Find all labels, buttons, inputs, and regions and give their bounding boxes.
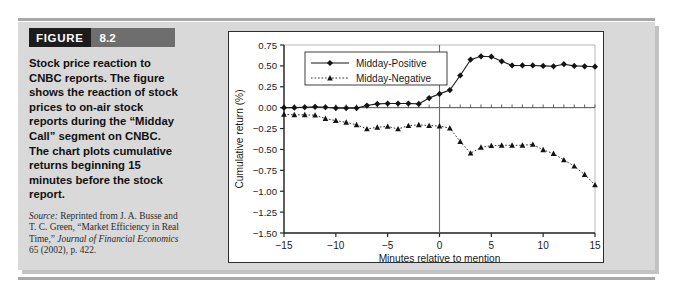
figure-caption-text: Stock price reaction to CNBC reports. Th…	[29, 56, 181, 202]
marker-diamond	[478, 53, 484, 59]
marker-triangle	[561, 157, 567, 162]
x-axis-title: Minutes relative to mention	[379, 253, 501, 262]
marker-diamond	[312, 104, 318, 110]
y-axis-title: Cumulative return (%)	[234, 89, 245, 188]
panel-shadow-bottom	[22, 270, 659, 274]
cumulative-return-line-chart: 0.750.500.250.00−0.25−0.50−0.75−1.00−1.2…	[229, 32, 603, 262]
figure-source: Source: Reprinted from J. A. Busse and T…	[29, 211, 179, 256]
marker-triangle	[426, 123, 432, 128]
marker-triangle	[571, 163, 577, 168]
marker-diamond	[468, 57, 474, 63]
marker-diamond	[519, 62, 525, 68]
x-tick-label: −5	[382, 240, 394, 251]
marker-diamond	[322, 104, 328, 110]
chart-card: 0.750.500.250.00−0.25−0.50−0.75−1.00−1.2…	[228, 31, 604, 263]
x-tick-label: 5	[489, 240, 495, 251]
marker-diamond	[582, 63, 588, 69]
y-tick-label: −1.25	[253, 207, 277, 218]
y-tick-label: −1.00	[253, 186, 277, 197]
marker-triangle	[447, 125, 453, 130]
marker-triangle	[468, 150, 474, 155]
marker-diamond	[343, 105, 349, 111]
marker-diamond	[302, 104, 308, 110]
marker-diamond	[374, 101, 380, 107]
marker-diamond	[488, 54, 494, 60]
marker-diamond	[550, 63, 556, 69]
marker-diamond	[571, 63, 577, 69]
marker-diamond	[291, 105, 297, 111]
panel-shadow-right	[655, 26, 659, 274]
marker-diamond	[333, 105, 339, 111]
marker-diamond	[281, 105, 287, 111]
legend-label-1: Midday-Positive	[356, 58, 427, 69]
legend-label-2: Midday-Negative	[356, 73, 431, 84]
y-tick-label: −1.50	[253, 228, 277, 239]
y-tick-label: −0.25	[253, 123, 277, 134]
marker-triangle	[364, 126, 370, 131]
marker-triangle	[374, 124, 380, 129]
marker-triangle	[540, 147, 546, 152]
y-tick-label: 0.75	[258, 40, 277, 51]
y-tick-label: 0.25	[258, 81, 277, 92]
marker-diamond	[426, 95, 432, 101]
figure-tag-number: 8.2	[91, 28, 175, 47]
figure-page: FIGURE 8.2 Stock price reaction to CNBC …	[0, 0, 673, 307]
marker-diamond	[395, 100, 401, 106]
top-rule	[18, 18, 655, 21]
marker-triangle	[592, 182, 598, 187]
source-label: Source:	[29, 211, 58, 221]
marker-diamond	[592, 64, 598, 70]
marker-diamond	[353, 105, 359, 111]
marker-diamond	[405, 100, 411, 106]
marker-triangle	[551, 151, 557, 156]
y-tick-label: 0.00	[258, 102, 277, 113]
figure-tag: FIGURE 8.2	[29, 28, 175, 47]
marker-diamond	[416, 101, 422, 107]
marker-diamond	[540, 63, 546, 69]
x-tick-label: 10	[538, 240, 550, 251]
marker-triangle	[385, 123, 391, 128]
source-italic-journal: Journal of Financial Economics	[57, 234, 178, 244]
x-tick-label: −10	[327, 240, 344, 251]
marker-triangle	[406, 123, 412, 128]
x-tick-label: 0	[437, 240, 443, 251]
marker-triangle	[488, 143, 494, 148]
marker-diamond	[530, 62, 536, 68]
x-tick-label: 15	[589, 240, 601, 251]
bottom-rule	[18, 277, 655, 280]
marker-triangle	[416, 122, 422, 127]
marker-triangle	[281, 111, 287, 116]
x-tick-label: −15	[276, 240, 293, 251]
marker-triangle	[530, 141, 536, 146]
y-tick-label: 0.50	[258, 60, 277, 71]
y-tick-label: −0.50	[253, 144, 277, 155]
marker-triangle	[395, 126, 401, 131]
marker-diamond	[436, 91, 442, 97]
marker-diamond	[561, 61, 567, 67]
marker-triangle	[478, 144, 484, 149]
y-tick-label: −0.75	[253, 165, 277, 176]
marker-triangle	[437, 123, 443, 128]
marker-triangle	[354, 122, 360, 127]
marker-diamond	[385, 100, 391, 106]
marker-diamond	[509, 62, 515, 68]
figure-tag-word: FIGURE	[29, 28, 91, 47]
source-text-2: 65 (2002), p. 422.	[29, 245, 96, 255]
caption-column: FIGURE 8.2 Stock price reaction to CNBC …	[29, 28, 189, 266]
marker-diamond	[499, 58, 505, 64]
marker-triangle	[582, 172, 588, 177]
